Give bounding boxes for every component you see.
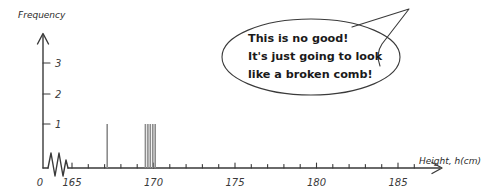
x-tick-label-185: 185 <box>388 177 407 188</box>
y-tick-marks <box>43 63 50 124</box>
y-axis-title: Frequency <box>18 10 66 20</box>
x-axis-origin-label: 0 <box>37 177 43 188</box>
y-axis-group <box>38 34 49 169</box>
speech-bubble-line-1: This is no good! <box>248 32 348 45</box>
bar-series <box>106 124 156 168</box>
y-tick-label-3: 3 <box>55 58 61 69</box>
bar-spike <box>145 124 147 168</box>
x-tick-label-170: 170 <box>144 177 163 188</box>
bar-spike <box>152 124 154 168</box>
speech-bubble-line-2: It's just going to look <box>248 50 383 63</box>
bar-spike <box>106 124 108 168</box>
bar-spike <box>154 124 156 168</box>
axis-break-zigzag <box>48 153 68 176</box>
x-tick-label-175: 175 <box>225 177 244 188</box>
x-tick-label-165: 165 <box>62 177 81 188</box>
x-tick-label-180: 180 <box>307 177 326 188</box>
x-tick-marks <box>72 163 414 168</box>
bar-spike <box>147 124 149 168</box>
chart-svg: 1 2 3 Frequency <box>0 0 482 194</box>
x-axis-title: Height, h(cm) <box>419 156 481 166</box>
speech-bubble: This is no good! It's just going to look… <box>222 9 409 95</box>
y-tick-label-1: 1 <box>55 119 61 130</box>
bar-spike <box>150 124 152 168</box>
speech-bubble-line-3: like a broken comb! <box>248 68 373 81</box>
y-tick-label-2: 2 <box>55 89 61 100</box>
figure-canvas: 1 2 3 Frequency <box>0 0 482 194</box>
